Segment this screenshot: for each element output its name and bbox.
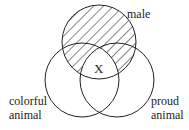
label-colorful-line2: animal [9,108,42,122]
label-male: male [127,7,150,21]
label-colorful-line1: colorful [9,94,48,108]
marker-x: X [94,61,104,76]
label-proud-line2: animal [151,108,184,122]
venn-diagram: X male colorful animal proud animal [0,0,189,130]
label-proud-line1: proud [151,94,179,108]
